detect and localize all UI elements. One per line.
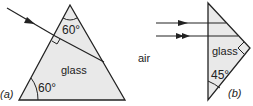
ray-arrow-icon [24, 17, 35, 24]
air-label: air [138, 52, 151, 64]
part-a-label: (a) [0, 88, 14, 100]
part-b-label: (b) [228, 87, 242, 99]
angle-45-label: 45° [211, 68, 229, 82]
ray-1-arrow-icon [178, 20, 188, 26]
prism-diagram: 60° glass 60° (a) air glass 45° (b) [0, 0, 253, 106]
ray-2-arrow-icon [176, 33, 190, 39]
prism-a-body [19, 5, 125, 100]
apex-angle-label: 60° [62, 23, 80, 37]
part-a-prism [7, 5, 125, 100]
base-angle-label: 60° [38, 81, 56, 95]
glass-label-a: glass [61, 64, 87, 76]
glass-label-b: glass [212, 45, 238, 57]
